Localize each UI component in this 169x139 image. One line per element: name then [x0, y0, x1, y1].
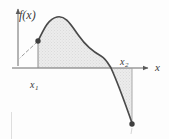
positive-shaded-area	[38, 16, 111, 68]
x-axis-label: x	[155, 62, 160, 73]
lower-limit-symbol: x	[30, 79, 34, 90]
page-edge-artifact	[11, 112, 12, 139]
upper-limit-symbol: x	[120, 56, 124, 67]
end-point-tail	[131, 128, 132, 134]
end-point-dot	[129, 121, 134, 126]
dashed-extension-line	[20, 42, 37, 58]
function-graph-figure: f(x) x x1 x2	[0, 0, 169, 139]
lower-limit-subscript: 1	[35, 84, 39, 92]
start-point-dot	[35, 38, 40, 43]
upper-limit-label: x2	[120, 57, 128, 67]
lower-limit-label: x1	[30, 80, 38, 90]
upper-limit-subscript: 2	[125, 61, 129, 69]
y-axis-label: f(x)	[19, 9, 36, 21]
